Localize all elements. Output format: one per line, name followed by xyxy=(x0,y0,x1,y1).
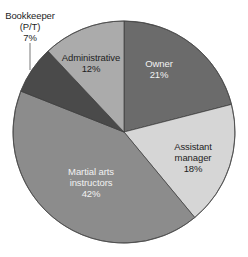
pie-slices xyxy=(13,21,235,243)
label-martial-pct: 42% xyxy=(68,188,114,199)
label-administrative: Administrative 12% xyxy=(62,52,120,74)
label-martial-line2: instructors xyxy=(68,177,114,188)
label-owner-name: Owner xyxy=(145,58,172,69)
label-bookkeeper-line1: Bookkeeper xyxy=(5,10,55,21)
label-martial-arts-instructors: Martial arts instructors 42% xyxy=(68,166,114,199)
label-administrative-pct: 12% xyxy=(62,63,120,74)
label-assistant-line2: manager xyxy=(174,152,212,163)
label-owner-pct: 21% xyxy=(145,69,172,80)
label-bookkeeper-pct: 7% xyxy=(5,32,55,43)
label-assistant-line1: Assistant xyxy=(174,141,212,152)
label-owner: Owner 21% xyxy=(145,58,172,80)
label-assistant-pct: 18% xyxy=(174,163,212,174)
label-bookkeeper-line2: (P/T) xyxy=(5,21,55,32)
label-administrative-name: Administrative xyxy=(62,52,120,63)
label-assistant-manager: Assistant manager 18% xyxy=(174,141,212,174)
label-bookkeeper: Bookkeeper (P/T) 7% xyxy=(5,10,55,43)
label-martial-line1: Martial arts xyxy=(68,166,114,177)
